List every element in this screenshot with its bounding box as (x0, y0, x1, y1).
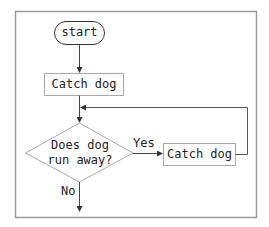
no-label: No (61, 184, 75, 198)
decision-label-line1: Does dog (30, 138, 130, 153)
decision-label-line2: run away? (30, 153, 130, 168)
catch-dog-label-2: Catch dog (163, 147, 236, 162)
start-label: start (54, 25, 105, 40)
diagram-frame (16, 12, 257, 218)
flowchart-canvas (0, 0, 269, 227)
yes-label: Yes (133, 136, 155, 150)
catch-dog-label-1: Catch dog (44, 77, 124, 92)
